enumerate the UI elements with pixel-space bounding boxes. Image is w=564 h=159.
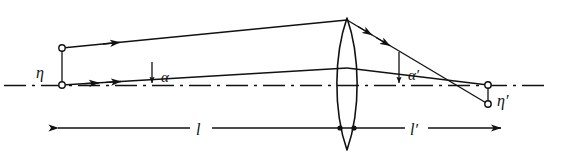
ray-lower-incident — [62, 68, 347, 85]
ray-upper-exit-arrowhead-2 — [376, 38, 390, 46]
image-axial-point — [485, 82, 491, 88]
ray-upper-exit-arrowhead-1 — [358, 27, 372, 36]
image-angle-label: α′ — [408, 67, 420, 83]
diagram-canvas: η η′ α α′ l l′ — [0, 0, 564, 159]
object-distance-label: l — [196, 121, 201, 138]
object-height-label: η — [36, 64, 44, 82]
ray-lower-incident-arrowhead-2 — [106, 82, 121, 83]
lens-dimension-tick-left — [337, 125, 342, 130]
ray-lower-incident-arrowhead-1 — [84, 83, 99, 84]
image-height-label: η′ — [497, 92, 509, 110]
object-axial-point — [59, 82, 65, 88]
lens-dimension-tick-right — [351, 125, 356, 130]
object-angle-label: α — [161, 69, 170, 85]
image-distance-label: l′ — [410, 121, 418, 138]
image-bottom-point — [485, 101, 491, 107]
ray-upper-incident-arrowhead — [103, 42, 120, 44]
object-top-point — [59, 45, 65, 51]
optical-ray-diagram-figure: η η′ α α′ l l′ — [0, 0, 564, 159]
